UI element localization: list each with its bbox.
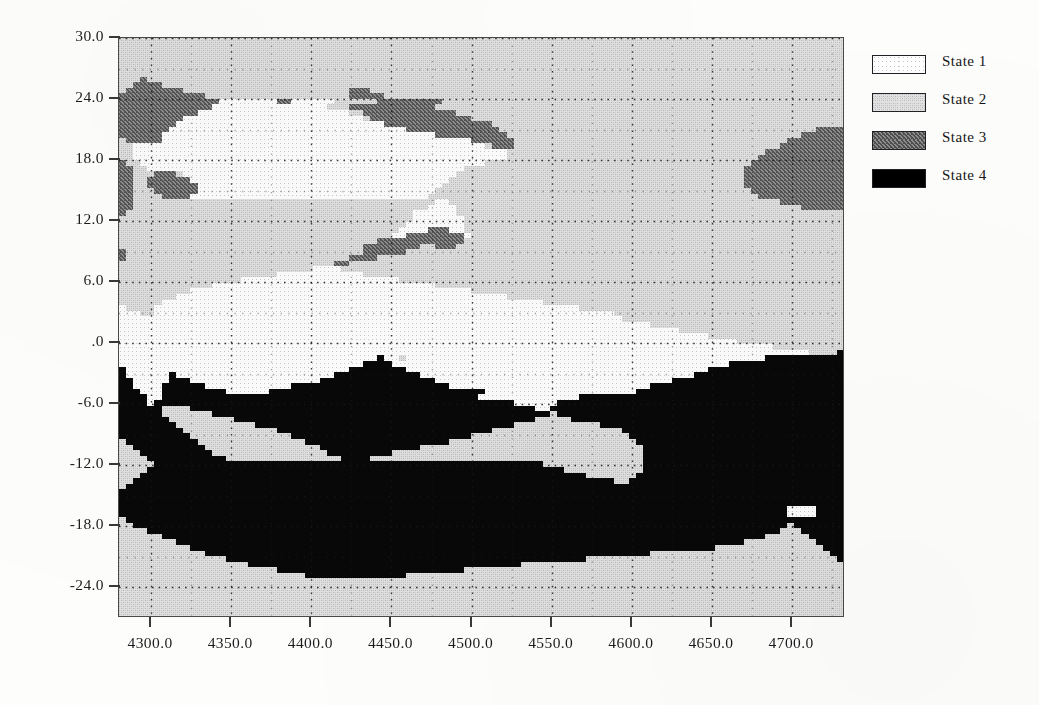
legend-row[interactable]: State 1: [872, 52, 1032, 82]
y-tick-label: 24.0: [24, 88, 104, 106]
x-tick-mark: [710, 617, 712, 627]
x-tick-mark: [550, 617, 552, 627]
y-tick-label: -6.0: [24, 393, 104, 411]
y-tick-mark: [109, 97, 120, 99]
x-tick-label: 4650.0: [666, 634, 756, 652]
y-tick-label: 12.0: [24, 210, 104, 228]
y-tick-label: .0: [24, 332, 104, 350]
y-tick-mark: [109, 36, 120, 38]
x-tick-label: 4600.0: [586, 634, 676, 652]
legend-label: State 1: [942, 53, 987, 70]
y-tick-label-wrap: -24.0: [24, 576, 104, 596]
legend-row[interactable]: State 4: [872, 166, 1032, 196]
x-tick-label: 4700.0: [746, 634, 836, 652]
y-tick-mark: [109, 341, 120, 343]
legend-row[interactable]: State 3: [872, 128, 1032, 158]
y-tick-label-wrap: 6.0: [24, 271, 104, 291]
y-tick-label: -24.0: [24, 576, 104, 594]
y-tick-label-wrap: -6.0: [24, 393, 104, 413]
state-raster-canvas: [119, 38, 844, 617]
x-tick-label: 4350.0: [185, 634, 275, 652]
y-tick-label: 6.0: [24, 271, 104, 289]
legend-swatch-state-1: [872, 55, 926, 74]
y-tick-label: 30.0: [24, 27, 104, 45]
y-tick-mark: [109, 158, 120, 160]
y-tick-label-wrap: 24.0: [24, 88, 104, 108]
y-tick-label: -12.0: [24, 454, 104, 472]
x-tick-mark: [149, 617, 151, 627]
x-tick-mark: [229, 617, 231, 627]
x-tick-mark: [309, 617, 311, 627]
legend-swatch-state-4: [872, 169, 926, 188]
legend-swatch-state-3: [872, 131, 926, 150]
x-tick-label: 4300.0: [105, 634, 195, 652]
y-tick-mark: [109, 585, 120, 587]
plot-area[interactable]: [118, 37, 844, 617]
y-tick-mark: [109, 402, 120, 404]
legend-row[interactable]: State 2: [872, 90, 1032, 120]
x-tick-label: 4400.0: [265, 634, 355, 652]
y-tick-label: 18.0: [24, 149, 104, 167]
x-tick-label: 4550.0: [506, 634, 596, 652]
y-tick-mark: [109, 524, 120, 526]
legend-label: State 2: [942, 91, 987, 108]
legend-swatch-state-2: [872, 93, 926, 112]
y-tick-label-wrap: -12.0: [24, 454, 104, 474]
y-tick-mark: [109, 219, 120, 221]
y-tick-label-wrap: .0: [24, 332, 104, 352]
x-tick-label: 4450.0: [345, 634, 435, 652]
y-tick-mark: [109, 280, 120, 282]
x-tick-mark: [470, 617, 472, 627]
y-tick-label-wrap: 12.0: [24, 210, 104, 230]
y-tick-label-wrap: -18.0: [24, 515, 104, 535]
y-tick-label: -18.0: [24, 515, 104, 533]
x-tick-mark: [790, 617, 792, 627]
x-tick-label: 4500.0: [426, 634, 516, 652]
legend-label: State 3: [942, 129, 987, 146]
legend-label: State 4: [942, 167, 987, 184]
y-tick-label-wrap: 18.0: [24, 149, 104, 169]
x-tick-mark: [630, 617, 632, 627]
x-tick-mark: [389, 617, 391, 627]
figure-container: 30.024.018.012.06.0.0-6.0-12.0-18.0-24.0…: [0, 0, 1039, 705]
y-tick-mark: [109, 463, 120, 465]
y-tick-label-wrap: 30.0: [24, 27, 104, 47]
legend: State 1State 2State 3State 4: [872, 52, 1032, 204]
